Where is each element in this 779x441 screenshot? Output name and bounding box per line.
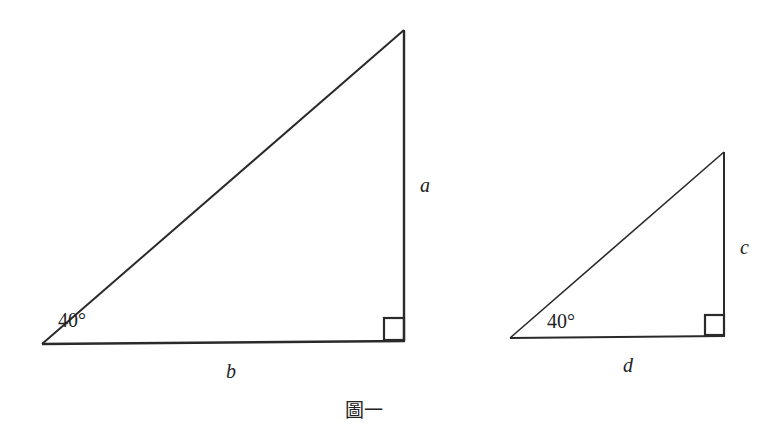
small-angle-label: 40° bbox=[547, 310, 575, 332]
figure-canvas: 40° a b 40° c d 圖一 bbox=[0, 0, 779, 441]
large-triangle: 40° a b bbox=[42, 30, 430, 382]
small-right-angle-marker bbox=[705, 315, 724, 335]
large-hypotenuse bbox=[42, 30, 404, 344]
small-hypotenuse bbox=[510, 152, 724, 338]
figure-caption: 圖一 bbox=[345, 400, 383, 421]
small-side-d-label: d bbox=[623, 354, 634, 376]
large-side-b bbox=[42, 341, 405, 344]
large-right-angle-marker bbox=[384, 318, 404, 340]
small-side-c-label: c bbox=[740, 236, 749, 258]
small-triangle: 40° c d bbox=[510, 152, 749, 376]
large-side-a-label: a bbox=[420, 174, 430, 196]
large-angle-label: 40° bbox=[58, 309, 86, 331]
large-side-b-label: b bbox=[226, 360, 236, 382]
small-side-d bbox=[510, 336, 725, 338]
